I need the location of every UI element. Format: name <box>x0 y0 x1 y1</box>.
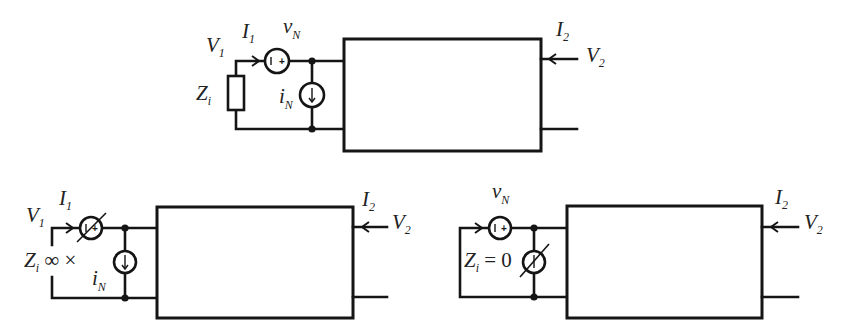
top-label-in: iN <box>279 84 294 112</box>
bottom-right-circuit: + vN Zi = 0 I2 V2 <box>460 179 823 318</box>
top-noise-voltage-source: + <box>265 49 289 73</box>
top-label-v1: V1 <box>206 33 225 60</box>
top-label-zi: Zi <box>196 81 211 108</box>
br-label-v2: V2 <box>804 210 823 237</box>
bl-label-i2: I2 <box>361 187 375 214</box>
br-noise-voltage-source: + <box>489 217 511 239</box>
bl-node-upper <box>121 224 128 231</box>
top-node-lower <box>308 125 315 132</box>
bl-disabled-noise-voltage-source: + <box>77 213 106 242</box>
top-label-i1: I1 <box>241 19 255 46</box>
br-label-vn: vN <box>492 179 510 207</box>
br-node-lower <box>530 293 537 300</box>
br-label-i2: I2 <box>774 185 788 212</box>
br-output-wires <box>762 227 798 297</box>
bl-label-v2: V2 <box>392 210 411 237</box>
bl-label-i1: I1 <box>58 186 72 213</box>
bl-two-port-box <box>157 207 353 318</box>
bl-label-in: iN <box>92 266 107 294</box>
bl-label-v1: V1 <box>26 203 45 230</box>
br-two-port-box <box>567 206 762 318</box>
top-label-i2: I2 <box>555 17 569 44</box>
br-node-upper <box>530 224 537 231</box>
top-circuit: + V1 I1 vN Zi iN I2 V2 <box>196 14 605 151</box>
top-noise-current-source <box>300 83 324 107</box>
top-input-left-wire <box>236 61 344 129</box>
br-label-zi-zero: Zi = 0 <box>464 248 512 275</box>
top-output-wires <box>541 59 577 129</box>
svg-text:+: + <box>501 223 507 234</box>
top-label-v2: V2 <box>586 43 605 70</box>
top-node-upper <box>308 57 315 64</box>
top-label-vn: vN <box>283 14 301 42</box>
bottom-left-circuit: + V1 I1 Zi ∞ × iN I2 V2 <box>24 186 411 318</box>
two-port-noise-model-diagram: + V1 I1 vN Zi iN I2 V2 + <box>0 0 845 331</box>
top-source-impedance-resistor <box>228 76 244 110</box>
top-two-port-box <box>344 39 541 151</box>
svg-text:+: + <box>279 56 285 67</box>
bl-output-wires <box>353 227 387 297</box>
bl-noise-current-source <box>114 251 136 273</box>
bl-node-lower <box>121 294 128 301</box>
bl-label-zi-infinite: Zi ∞ × <box>24 248 76 275</box>
